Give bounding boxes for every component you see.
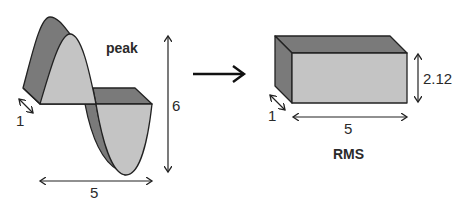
diagram-canvas	[0, 0, 467, 206]
transform-arrow	[193, 66, 244, 82]
rms-height-label: 2.12	[423, 70, 452, 87]
rms-depth-label: 1	[268, 107, 276, 124]
peak-depth-label: 1	[16, 112, 24, 129]
rms-title: RMS	[333, 146, 364, 162]
peak-width-label: 5	[90, 184, 98, 201]
rms-width-label: 5	[344, 120, 352, 137]
peak-title: peak	[106, 40, 138, 56]
peak-height-label: 6	[172, 97, 180, 114]
rms-box-shape	[275, 36, 407, 103]
